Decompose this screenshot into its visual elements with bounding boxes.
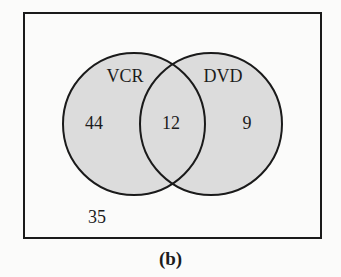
vcr-label: VCR [106,66,143,86]
dvd-label: DVD [204,66,243,86]
outside-count: 35 [88,207,106,227]
venn-diagram: VCR DVD 44 12 9 35 [0,0,341,277]
vcr-only-count: 44 [85,113,103,133]
dvd-only-count: 9 [243,113,252,133]
figure-caption: (b) [0,248,341,270]
intersection-count: 12 [162,113,180,133]
